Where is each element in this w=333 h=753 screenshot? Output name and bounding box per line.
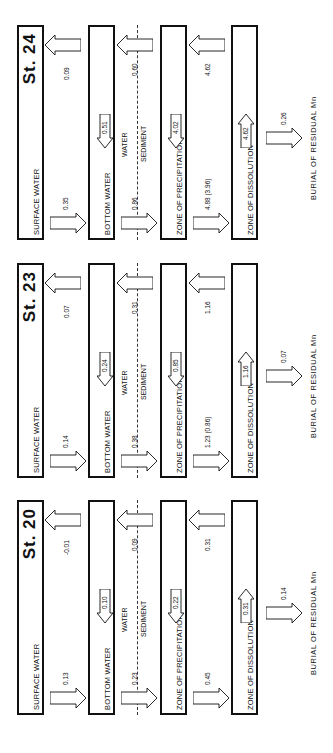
- station-panel-2: SURFACE WATER St. 23 0.14 0.07 BOTTOM WA…: [0, 260, 333, 478]
- arrow-up-icon: [117, 35, 153, 55]
- sediment-label: SEDIMENT: [140, 364, 148, 400]
- flux-precipitation-to-dissolution: 1.23 (0.86): [204, 417, 211, 448]
- zone-precipitation-label: ZONE OF PRECIPITATION: [175, 139, 184, 235]
- zone-precipitation-label: ZONE OF PRECIPITATION: [175, 377, 184, 473]
- bottom-water-internal-flux: 0.24: [101, 359, 108, 372]
- zone-precipitation-label: ZONE OF PRECIPITATION: [175, 614, 184, 710]
- arrow-up-icon: [117, 273, 153, 293]
- flux-water-to-sediment: 0.38: [131, 435, 138, 448]
- station-panel-3: SURFACE WATER St. 24 0.35 0.09 BOTTOM WA…: [0, 22, 333, 240]
- bottom-water-label: BOTTOM WATER: [103, 172, 112, 235]
- bottom-water-label: BOTTOM WATER: [103, 410, 112, 473]
- arrow-down-icon: [50, 688, 86, 708]
- diagram-canvas: SURFACE WATER St. 20 0.13 -0.01 BOTTOM W…: [0, 0, 333, 753]
- burial-label: BURIAL OF RESIDUAL Mn: [309, 334, 318, 438]
- water-label: WATER: [121, 133, 129, 158]
- sediment-label: SEDIMENT: [140, 601, 148, 637]
- arrow-down-icon: [121, 688, 157, 708]
- arrow-down-icon: [121, 213, 157, 233]
- zone-dissolution-label: ZONE OF DISSOLUTION: [246, 620, 255, 710]
- arrow-down-icon: [50, 213, 86, 233]
- surface-water-label: SURFACE WATER: [32, 407, 41, 473]
- water-label: WATER: [121, 608, 129, 633]
- flux-precipitation-to-dissolution: 0.45: [204, 672, 211, 685]
- precipitation-internal-flux: 4.02: [172, 121, 179, 134]
- water-label: WATER: [121, 371, 129, 396]
- arrow-down-icon: [266, 366, 302, 386]
- arrow-down-icon: [193, 688, 229, 708]
- precipitation-internal-flux: 0.22: [172, 596, 179, 609]
- arrow-up-icon: [189, 510, 225, 530]
- flux-dissolution-to-precipitation: 0.31: [204, 538, 211, 551]
- flux-dissolution-to-precipitation: 4.62: [204, 63, 211, 76]
- arrow-up-icon: [189, 273, 225, 293]
- arrow-down-icon: [121, 451, 157, 471]
- flux-surface-to-bottom: 0.13: [62, 672, 69, 685]
- flux-water-to-sediment: 0.23: [131, 672, 138, 685]
- arrow-down-icon: [266, 603, 302, 623]
- station-title: St. 20: [20, 508, 40, 559]
- flux-burial: 0.26: [280, 112, 287, 125]
- arrow-down-icon: [193, 213, 229, 233]
- flux-dissolution-to-precipitation: 1.16: [204, 301, 211, 314]
- station-panel-1: SURFACE WATER St. 20 0.13 -0.01 BOTTOM W…: [0, 497, 333, 715]
- flux-surface-to-bottom: 0.35: [62, 197, 69, 210]
- burial-label: BURIAL OF RESIDUAL Mn: [309, 96, 318, 200]
- arrow-up-icon: [117, 510, 153, 530]
- arrow-down-icon: [266, 128, 302, 148]
- dissolution-internal-flux: 4.62: [242, 127, 249, 140]
- arrow-down-icon: [193, 451, 229, 471]
- surface-water-box: SURFACE WATER St. 23: [17, 263, 44, 478]
- arrow-up-icon: [45, 273, 81, 293]
- arrow-up-icon: [189, 35, 225, 55]
- bottom-water-label: BOTTOM WATER: [103, 647, 112, 710]
- flux-precipitation-to-dissolution: 4.88 (3.96): [204, 179, 211, 210]
- flux-sediment-to-water: 0.31: [131, 301, 138, 314]
- surface-water-box: SURFACE WATER St. 20: [17, 500, 44, 715]
- precipitation-internal-flux: 0.85: [172, 359, 179, 372]
- arrow-down-icon: [50, 451, 86, 471]
- dissolution-internal-flux: 0.31: [242, 602, 249, 615]
- flux-burial: 0.14: [280, 587, 287, 600]
- station-title: St. 24: [20, 33, 40, 84]
- zone-dissolution-label: ZONE OF DISSOLUTION: [246, 383, 255, 473]
- burial-label: BURIAL OF RESIDUAL Mn: [309, 571, 318, 675]
- flux-bottom-to-surface: 0.07: [63, 305, 70, 318]
- zone-dissolution-label: ZONE OF DISSOLUTION: [246, 145, 255, 235]
- flux-surface-to-bottom: 0.14: [62, 435, 69, 448]
- flux-sediment-to-water: 0.60: [131, 63, 138, 76]
- bottom-water-internal-flux: 0.10: [101, 596, 108, 609]
- arrow-up-icon: [45, 510, 81, 530]
- surface-water-box: SURFACE WATER St. 24: [17, 25, 44, 240]
- surface-water-label: SURFACE WATER: [32, 169, 41, 235]
- station-title: St. 23: [20, 271, 40, 322]
- flux-bottom-to-surface: 0.09: [63, 67, 70, 80]
- flux-sediment-to-water: 0.09: [131, 538, 138, 551]
- dissolution-internal-flux: 1.16: [242, 365, 249, 378]
- bottom-water-internal-flux: 0.51: [101, 121, 108, 134]
- surface-water-label: SURFACE WATER: [32, 644, 41, 710]
- sediment-label: SEDIMENT: [140, 126, 148, 162]
- flux-burial: 0.07: [280, 350, 287, 363]
- flux-water-to-sediment: 0.86: [131, 197, 138, 210]
- arrow-up-icon: [45, 35, 81, 55]
- flux-bottom-to-surface: -0.01: [63, 540, 70, 555]
